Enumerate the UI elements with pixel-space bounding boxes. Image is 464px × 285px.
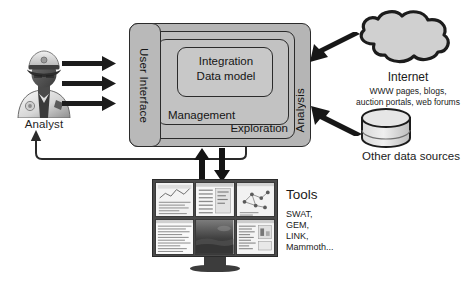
internet-group: Internet WWW pages, blogs, auction porta… <box>352 8 464 108</box>
other-data-sources-group: Other data sources <box>358 108 464 164</box>
layer-user-interface-label: User Interface <box>138 48 150 123</box>
tools-group: Tools SWAT, GEM, LINK, Mammoth... <box>286 187 406 257</box>
data-sources-to-system-arrow <box>308 100 362 136</box>
layer-integration-label-line2: Data model <box>178 69 274 84</box>
layer-analysis-label: Analysis <box>294 88 306 132</box>
tool-item: GEM, <box>286 220 406 231</box>
layer-integration-data-model: Integration Data model <box>177 47 273 97</box>
monitor-base <box>190 265 240 272</box>
tool-item: LINK, <box>286 231 406 242</box>
layer-management-label: Management <box>168 109 235 121</box>
arrow-right-icon <box>62 56 128 114</box>
arrow-down-icon <box>214 148 230 182</box>
database-cylinder-icon <box>358 108 414 152</box>
chart-screenshot-tile <box>155 182 194 218</box>
multi-screen-monitor <box>152 179 278 279</box>
spreadsheet-screenshot-tile <box>155 219 194 255</box>
tool-item: Mammoth... <box>286 242 406 253</box>
arrow-upleft-icon <box>308 100 362 136</box>
monitor-screen-grid <box>152 179 278 257</box>
layer-user-interface: User Interface <box>129 23 161 147</box>
diagram-canvas: Analyst Analysis Exploration Management <box>0 0 464 285</box>
tools-system-arrows <box>190 148 234 182</box>
internet-title: Internet <box>352 70 464 84</box>
layer-integration-label-line1: Integration <box>178 54 274 69</box>
network-graph-screenshot-tile <box>236 182 275 218</box>
tools-list: SWAT, GEM, LINK, Mammoth... <box>286 209 406 253</box>
tools-title: Tools <box>286 187 406 202</box>
tool-item: SWAT, <box>286 209 406 220</box>
system-architecture-box: Analysis Exploration Management Integrat… <box>129 23 311 147</box>
image-view-screenshot-tile <box>195 219 234 255</box>
internet-description-line1: WWW pages, blogs, <box>340 86 464 97</box>
layer-integration-label: Integration Data model <box>178 54 274 84</box>
internet-to-system-arrow <box>308 32 360 66</box>
arrow-up-icon <box>194 148 210 182</box>
other-data-sources-label: Other data sources <box>336 150 464 162</box>
list-panel-screenshot-tile <box>236 219 275 255</box>
cloud-icon <box>352 8 460 70</box>
table-screenshot-tile <box>195 182 234 218</box>
analyst-to-ui-arrows <box>62 56 128 114</box>
arrow-left-icon <box>308 32 360 66</box>
